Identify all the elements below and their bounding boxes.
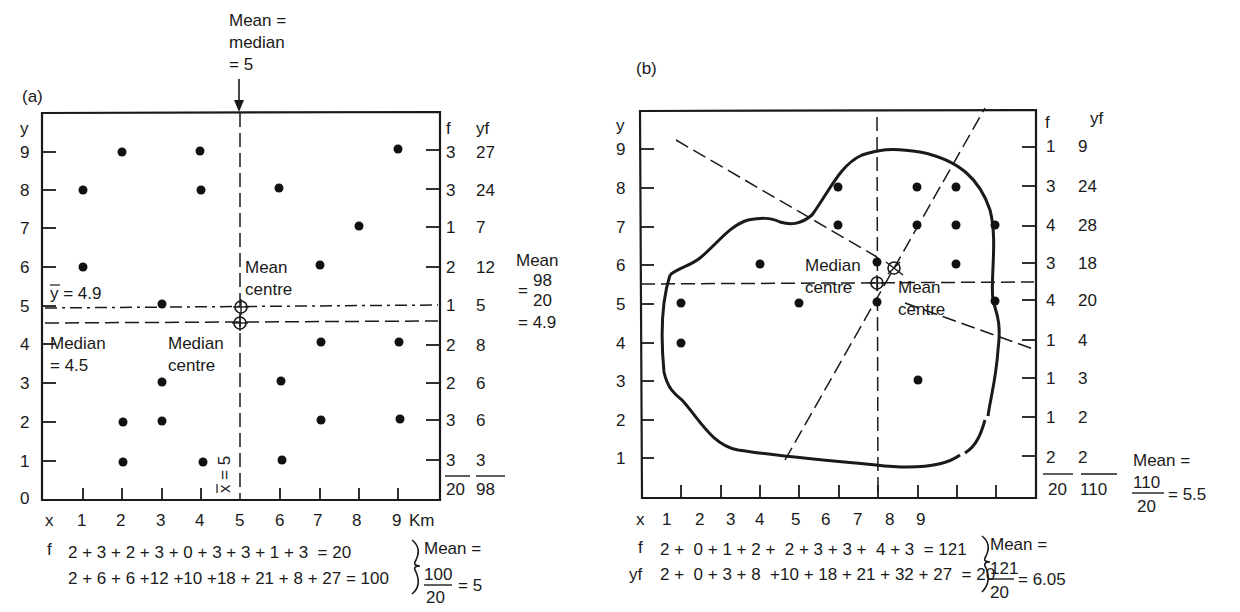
svg-text:2: 2 [1046,448,1055,467]
svg-text:Mean =: Mean = [424,539,481,558]
svg-text:110: 110 [1133,473,1160,492]
svg-text:18: 18 [1078,254,1097,273]
svg-text:8: 8 [885,510,894,529]
right-table-a: f yf 327 324 17 212 15 28 26 36 33 20 98 [445,119,505,499]
svg-text:= 6.05: = 6.05 [1018,570,1066,589]
svg-text:2: 2 [616,411,625,430]
svg-text:5: 5 [616,295,625,314]
svg-text:3: 3 [1046,254,1055,273]
svg-text:1: 1 [1046,369,1055,388]
xbar-label: x = 5 [215,456,234,493]
svg-text:x: x [45,511,54,530]
mean-centre-label-b-1: Mean [898,278,941,297]
y-tick-labels-b: 1 2 3 4 5 6 7 8 9 [616,140,625,468]
svg-text:98: 98 [533,271,552,290]
x-tick-labels-a: x 1 2 3 4 5 6 7 8 9 Km [45,511,435,530]
svg-text:4: 4 [195,511,204,530]
svg-text:9: 9 [392,511,401,530]
svg-text:1: 1 [77,511,86,530]
svg-text:1: 1 [1046,137,1055,156]
panel-b-label: (b) [636,59,657,78]
svg-text:3: 3 [446,181,455,200]
svg-text:= 5.5: = 5.5 [1168,485,1206,504]
svg-text:2: 2 [116,511,125,530]
svg-text:= 4.9: = 4.9 [518,313,556,332]
svg-text:1: 1 [446,296,455,315]
svg-text:5: 5 [791,510,800,529]
svg-text:Mean: Mean [516,251,559,270]
x-mean-calculation-a: Mean = 100 20 = 5 [424,539,482,607]
f-sum-row-b: 2 + 0 + 1 + 2 + 2 + 3 + 3 + 4 + 3 = 121 [660,540,967,559]
brace-a [412,540,420,594]
svg-text:28: 28 [1078,216,1097,235]
bisector-nw-line [676,140,877,257]
svg-text:3: 3 [156,511,165,530]
svg-text:1: 1 [662,510,671,529]
svg-text:24: 24 [476,181,495,200]
f-row-label-b: f [638,538,643,557]
svg-text:7: 7 [20,219,29,238]
panel-a: (a) Mean = median = 5 y 0 1 2 3 4 5 6 7 … [20,11,559,607]
svg-text:7: 7 [476,218,485,237]
svg-text:f: f [1045,113,1050,132]
svg-text:98: 98 [476,480,495,499]
svg-text:9: 9 [1078,137,1087,156]
median-centre-label-2: centre [168,356,215,375]
svg-text:20: 20 [990,583,1009,602]
svg-text:6: 6 [476,374,485,393]
svg-text:27: 27 [476,143,495,162]
svg-text:6: 6 [275,511,284,530]
median-centre-label-1: Median [168,334,224,353]
svg-text:8: 8 [20,181,29,200]
svg-text:yf: yf [476,119,490,138]
svg-text:20: 20 [533,291,552,310]
svg-text:2: 2 [446,336,455,355]
svg-text:3: 3 [446,451,455,470]
svg-text:Mean =: Mean = [990,535,1047,554]
yf-row-label-b: yf [629,565,643,584]
median-centre-marker-a [232,315,248,331]
svg-text:=: = [518,281,528,300]
svg-text:1: 1 [1046,408,1055,427]
svg-text:9: 9 [616,140,625,159]
svg-text:9: 9 [20,143,29,162]
figure-canvas: (a) Mean = median = 5 y 0 1 2 3 4 5 6 7 … [0,0,1240,612]
median-x-line-b [877,117,878,498]
svg-text:2: 2 [20,413,29,432]
svg-text:20: 20 [446,480,465,499]
svg-text:3: 3 [20,374,29,393]
svg-text:2: 2 [446,374,455,393]
svg-text:6: 6 [821,510,830,529]
median-y-label-2: = 4.5 [50,356,88,375]
svg-text:4: 4 [1046,291,1055,310]
svg-text:5: 5 [476,296,485,315]
svg-text:2: 2 [446,258,455,277]
svg-text:8: 8 [352,511,361,530]
xf-sum-row-b: 2 + 0 + 3 + 8 +10 + 18 + 21 + 32 + 27 = … [660,565,995,584]
xf-sum-row-a: 2 + 6 + 6 +12 +10 +18 + 21 + 8 + 27 = 10… [68,569,389,588]
svg-text:3: 3 [446,411,455,430]
svg-text:4: 4 [616,334,625,353]
svg-text:8: 8 [616,179,625,198]
x-tick-labels-b: x 1 2 3 4 5 6 7 8 9 [636,510,925,529]
svg-text:24: 24 [1078,177,1097,196]
svg-text:20: 20 [1048,480,1067,499]
x-axis-ticks-b [681,485,996,498]
f-sum-row-a: 2 + 3 + 2 + 3 + 0 + 3 + 3 + 1 + 3 = 20 [68,543,351,562]
svg-text:6: 6 [616,256,625,275]
svg-text:5: 5 [20,297,29,316]
y-axis-label-b: y [616,116,625,135]
median-centre-label-b-2: centre [805,278,852,297]
svg-text:0: 0 [20,489,29,508]
region-boundary [662,149,999,467]
svg-text:4: 4 [1078,331,1087,350]
svg-text:20: 20 [426,588,445,607]
svg-text:3: 3 [726,510,735,529]
svg-text:yf: yf [1090,109,1104,128]
mean-centre-label-2: centre [245,280,292,299]
y-mean-calculation-a: Mean 98 = 20 = 4.9 [516,251,559,332]
mean-median-annotation-line1: Mean = [229,11,286,30]
svg-text:110: 110 [1080,480,1107,499]
svg-text:= 5: = 5 [458,576,482,595]
svg-text:9: 9 [916,510,925,529]
